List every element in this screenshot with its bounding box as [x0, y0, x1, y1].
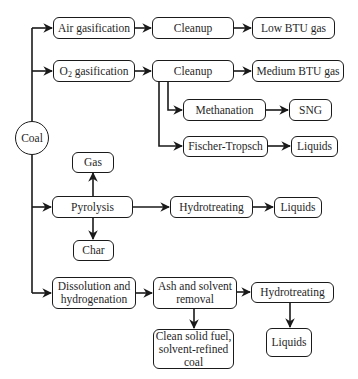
node-char-label: Char [82, 244, 104, 257]
node-clean-fuel-line1: Clean solid fuel, [156, 330, 232, 343]
node-cleanup-2-label: Cleanup [174, 65, 212, 78]
node-clean-fuel-line3: coal [184, 356, 203, 369]
node-clean-solid-fuel: Clean solid fuel, solvent-refined coal [153, 329, 234, 369]
node-methanation-label: Methanation [195, 104, 253, 117]
node-ash-removal-line1: Ash and solvent [158, 280, 232, 293]
node-sng-label: SNG [299, 104, 322, 117]
node-clean-fuel-line2: solvent-refined [159, 343, 229, 356]
node-low-btu-gas: Low BTU gas [252, 17, 335, 39]
node-dissolution-line2: hydrogenation [61, 293, 127, 306]
node-cleanup-1: Cleanup [152, 17, 234, 39]
node-cleanup-1-label: Cleanup [174, 22, 212, 35]
node-hydrotreating-1: Hydrotreating [170, 196, 253, 218]
node-ash-solvent-removal: Ash and solvent removal [153, 277, 237, 309]
coal-conversion-diagram: Coal Air gasification Cleanup Low BTU ga… [0, 0, 358, 379]
node-o2-gasification: O2 gasification [53, 60, 135, 82]
o2-prefix: O [60, 65, 68, 77]
node-hydrotreating-1-label: Hydrotreating [179, 201, 244, 214]
node-air-gasification-label: Air gasification [58, 22, 130, 35]
node-methanation: Methanation [183, 99, 266, 121]
node-dissolution-line1: Dissolution and [58, 280, 131, 293]
node-hydrotreating-2: Hydrotreating [251, 282, 334, 303]
node-liquids-ft: Liquids [291, 136, 338, 157]
node-dissolution-hydrogenation: Dissolution and hydrogenation [52, 277, 136, 309]
node-coal: Coal [15, 121, 49, 155]
node-gas: Gas [72, 152, 114, 173]
node-coal-label: Coal [21, 132, 43, 145]
node-o2-gasification-label: O2 gasification [60, 65, 129, 78]
node-fischer-tropsch-label: Fischer-Tropsch [188, 140, 263, 153]
node-low-btu-gas-label: Low BTU gas [261, 22, 326, 35]
node-liquids-dissolution: Liquids [266, 328, 312, 357]
node-liquids-pyrolysis-label: Liquids [280, 201, 315, 214]
node-pyrolysis-label: Pyrolysis [71, 201, 114, 214]
node-hydrotreating-2-label: Hydrotreating [260, 286, 325, 299]
node-gas-label: Gas [84, 156, 102, 169]
node-char: Char [73, 240, 114, 261]
o2-suffix: gasification [72, 65, 129, 77]
node-fischer-tropsch: Fischer-Tropsch [183, 136, 268, 157]
node-liquids-dissolution-label: Liquids [271, 336, 306, 349]
node-medium-btu-gas: Medium BTU gas [252, 60, 344, 82]
node-ash-removal-line2: removal [176, 293, 214, 306]
node-sng: SNG [289, 99, 332, 121]
node-liquids-pyrolysis: Liquids [274, 197, 322, 218]
node-medium-btu-gas-label: Medium BTU gas [256, 65, 339, 78]
node-liquids-ft-label: Liquids [297, 140, 332, 153]
node-cleanup-2: Cleanup [152, 60, 234, 82]
node-air-gasification: Air gasification [53, 17, 135, 39]
connector-lines [0, 0, 358, 379]
node-pyrolysis: Pyrolysis [52, 196, 133, 218]
